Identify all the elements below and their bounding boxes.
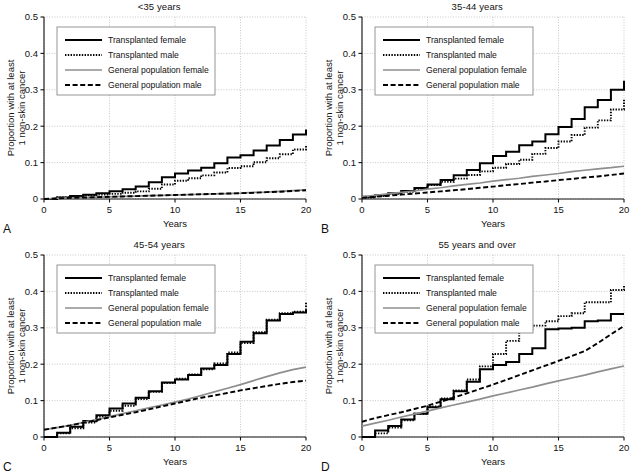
panel-b-plot: 00.10.20.30.40.505101520YearsProportion … [318,0,636,238]
x-tick-label: 5 [425,204,430,215]
y-tick-label: 0.1 [343,395,356,406]
y-tick-label: 0.1 [25,395,38,406]
y-tick-label: 0.5 [25,249,38,260]
y-axis-title-line2: 1 non-skin cancer [16,71,27,146]
panel-c-letter: C [3,460,12,474]
x-tick-label: 5 [107,442,112,453]
legend-label-general_population_male: General population male [426,318,520,328]
legend-label-general_population_female: General population female [108,303,209,313]
panel-a-plot: 00.10.20.30.40.505101520YearsProportion … [0,0,318,238]
legend-label-transplanted_female: Transplanted female [108,35,186,45]
x-tick-label: 20 [301,442,312,453]
y-tick-label: 0.1 [343,157,356,168]
y-axis-title-line1: Proportion with at least [5,59,16,156]
legend-label-transplanted_male: Transplanted male [108,50,179,60]
x-tick-label: 20 [619,204,630,215]
y-tick-label: 0 [33,431,38,442]
x-tick-label: 15 [553,442,564,453]
legend-label-transplanted_female: Transplanted female [426,273,504,283]
panel-c-plot: 00.10.20.30.40.505101520YearsProportion … [0,238,318,476]
x-axis-title: Years [163,456,187,467]
x-tick-label: 15 [235,204,246,215]
legend-label-general_population_female: General population female [426,65,527,75]
panel-b: 35-44 years 00.10.20.30.40.505101520Year… [318,0,637,238]
x-tick-label: 15 [235,442,246,453]
y-axis-title-line2: 1 non-skin cancer [16,309,27,384]
figure-root: <35 years 00.10.20.30.40.505101520YearsP… [0,0,637,476]
x-tick-label: 15 [553,204,564,215]
series-transplanted-male [44,145,306,199]
y-tick-label: 0.5 [343,11,356,22]
x-tick-label: 20 [301,204,312,215]
legend-label-transplanted_male: Transplanted male [426,50,497,60]
x-tick-label: 0 [41,442,46,453]
x-tick-label: 10 [170,442,181,453]
y-tick-label: 0.4 [25,286,38,297]
y-tick-label: 0.4 [343,286,356,297]
y-tick-label: 0.1 [25,157,38,168]
x-tick-label: 0 [359,442,364,453]
panel-a-letter: A [3,222,11,236]
panel-d-letter: D [321,460,330,474]
x-tick-label: 10 [488,442,499,453]
y-axis-title-line2: 1 non-skin cancer [334,309,345,384]
x-tick-label: 10 [170,204,181,215]
y-axis-title-line2: 1 non-skin cancer [334,71,345,146]
legend-label-general_population_female: General population female [108,65,209,75]
y-axis-title-line1: Proportion with at least [323,297,334,394]
legend-label-transplanted_female: Transplanted female [426,35,504,45]
y-tick-label: 0 [33,193,38,204]
y-tick-label: 0.4 [25,48,38,59]
y-tick-label: 0.5 [343,249,356,260]
x-tick-label: 0 [41,204,46,215]
y-tick-label: 0 [351,193,356,204]
y-tick-label: 0.4 [343,48,356,59]
legend-label-general_population_male: General population male [426,80,520,90]
legend-label-general_population_male: General population male [108,318,202,328]
legend-label-transplanted_male: Transplanted male [426,288,497,298]
legend-label-transplanted_female: Transplanted female [108,273,186,283]
x-tick-label: 5 [425,442,430,453]
y-tick-label: 0.5 [25,11,38,22]
panel-d-plot: 00.10.20.30.40.505101520YearsProportion … [318,238,636,476]
y-axis-title-line1: Proportion with at least [323,59,334,156]
x-axis-title: Years [481,456,505,467]
x-tick-label: 20 [619,442,630,453]
panel-d: 55 years and over 00.10.20.30.40.5051015… [318,238,637,476]
y-tick-label: 0 [351,431,356,442]
legend-label-general_population_female: General population female [426,303,527,313]
x-axis-title: Years [481,218,505,229]
x-axis-title: Years [163,218,187,229]
panel-b-letter: B [321,222,329,236]
x-tick-label: 0 [359,204,364,215]
series-general-population-male [362,326,624,422]
panel-c: 45-54 years 00.10.20.30.40.505101520Year… [0,238,319,476]
panel-a: <35 years 00.10.20.30.40.505101520YearsP… [0,0,319,238]
legend-label-transplanted_male: Transplanted male [108,288,179,298]
y-axis-title-line1: Proportion with at least [5,297,16,394]
x-tick-label: 5 [107,204,112,215]
x-tick-label: 10 [488,204,499,215]
legend-label-general_population_male: General population male [108,80,202,90]
